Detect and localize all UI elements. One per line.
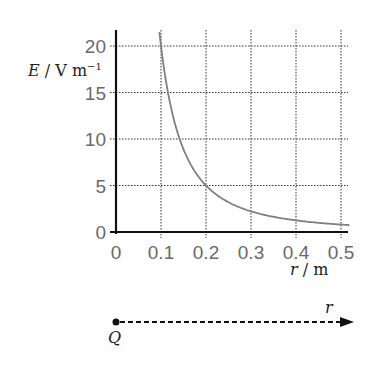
x-tick-label: 0.3 — [238, 242, 264, 263]
charge-label: Q — [108, 328, 121, 347]
y-tick-label: 5 — [95, 176, 106, 197]
chart: 05101520 00.10.20.30.40.5 E / V m−1 r / … — [0, 0, 377, 367]
direction-label: r — [325, 298, 334, 317]
arrow-head-icon — [340, 317, 354, 327]
grid-lines — [110, 30, 348, 238]
x-tick-label: 0 — [111, 242, 122, 263]
x-tick-label: 0.2 — [193, 242, 219, 263]
y-axis-label: E / V m−1 — [27, 61, 102, 80]
y-tick-label: 10 — [85, 129, 106, 150]
data-curve — [159, 32, 349, 225]
x-tick-label: 0.5 — [328, 242, 354, 263]
y-tick-label: 0 — [95, 222, 106, 243]
charge-diagram: Q r — [108, 298, 354, 347]
y-tick-label: 15 — [85, 83, 106, 104]
x-axis-label: r / m — [290, 260, 328, 279]
x-tick-label: 0.1 — [148, 242, 174, 263]
point-charge-dot — [113, 319, 120, 326]
y-tick-label: 20 — [85, 36, 106, 57]
